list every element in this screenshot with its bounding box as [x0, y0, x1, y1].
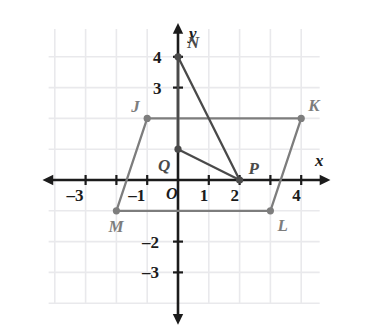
point-label-q: Q	[158, 157, 170, 174]
vertex-dot-q	[174, 146, 181, 153]
y-tick-label--2: –2	[142, 234, 159, 251]
x-tick-label-4: 4	[292, 187, 301, 204]
vertex-dot-l	[267, 207, 274, 214]
vertex-dot-k	[298, 115, 305, 122]
point-label-m: M	[108, 218, 123, 235]
x-tick-label-2: 2	[231, 187, 240, 204]
y-tick-label--3: –3	[142, 264, 159, 281]
x-tick-label--1: –1	[128, 187, 145, 204]
y-tick-label-4: 4	[153, 49, 162, 66]
point-label-j: J	[131, 98, 140, 115]
point-label-l: L	[277, 217, 287, 234]
vertex-dot-j	[144, 115, 151, 122]
x-axis-arrow-right	[320, 175, 331, 185]
x-axis-label: x	[315, 152, 324, 169]
vertex-dot-n	[174, 53, 181, 60]
point-label-n: N	[187, 34, 199, 51]
x-tick-label-1: 1	[200, 187, 209, 204]
y-tick-label-3: 3	[153, 80, 162, 97]
coordinate-plane-figure: yxO–3–112443–2–3JKLMNPQ	[0, 0, 374, 333]
point-label-p: P	[249, 160, 259, 177]
y-axis-arrow-up	[173, 23, 183, 34]
origin-label: O	[166, 186, 178, 202]
point-label-k: K	[308, 97, 319, 114]
y-axis-arrow-down	[173, 314, 183, 325]
vertex-dot-p	[236, 176, 243, 183]
x-axis-arrow-left	[42, 175, 53, 185]
x-tick-label--3: –3	[67, 187, 84, 204]
vertex-dot-m	[113, 207, 120, 214]
